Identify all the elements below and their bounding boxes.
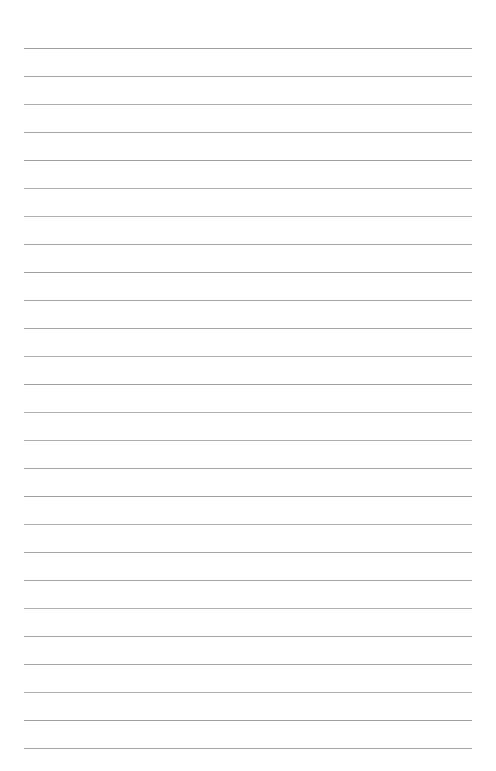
page-body-text[interactable] — [24, 0, 472, 771]
lined-paper-page — [0, 0, 496, 771]
